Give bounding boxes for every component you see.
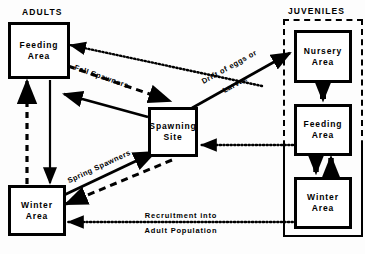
edge-label-recruitment-line2: Adult Population (106, 226, 256, 235)
group-title-adults: ADULTS (22, 7, 62, 17)
edge-label-recruitment-line1: Recruitment into (106, 211, 256, 220)
node-spawning-site[interactable]: Spawning Site (148, 107, 198, 157)
node-adult-winter-area[interactable]: Winter Area (8, 185, 66, 236)
node-juvenile-winter-area-line1: Winter (307, 192, 339, 202)
juveniles-frame-left-solid (283, 141, 285, 237)
node-spawning-site-line2: Site (163, 132, 182, 142)
node-juvenile-nursery-area-line1: Nursery (304, 46, 342, 56)
juveniles-frame-top (283, 19, 363, 21)
node-adult-winter-area-line2: Area (26, 211, 49, 221)
juveniles-frame-right-solid (361, 141, 363, 237)
node-juvenile-nursery-area-line2: Area (312, 57, 335, 67)
node-spawning-site-line1: Spawning (149, 121, 196, 131)
node-adult-feeding-area-line2: Area (28, 51, 51, 61)
node-juvenile-feeding-area-line1: Feeding (304, 119, 343, 129)
edge-spawning-to-adult-feeding (64, 94, 148, 117)
node-juvenile-nursery-area[interactable]: Nursery Area (294, 30, 352, 83)
node-adult-feeding-area[interactable]: Feeding Area (8, 22, 70, 79)
node-adult-feeding-area-line1: Feeding (20, 40, 59, 50)
node-juvenile-feeding-area[interactable]: Feeding Area (294, 104, 352, 156)
edge-spawning-to-adult-winter (66, 160, 172, 204)
node-adult-winter-area-line1: Winter (21, 200, 53, 210)
diagram-canvas: ADULTS JUVENILES Feeding Area Winter Are… (0, 0, 365, 254)
group-title-juveniles: JUVENILES (288, 6, 345, 16)
juveniles-frame-bottom (283, 235, 363, 237)
node-juvenile-winter-area-line2: Area (312, 203, 335, 213)
node-juvenile-winter-area[interactable]: Winter Area (294, 177, 352, 229)
node-juvenile-feeding-area-line2: Area (312, 130, 335, 140)
